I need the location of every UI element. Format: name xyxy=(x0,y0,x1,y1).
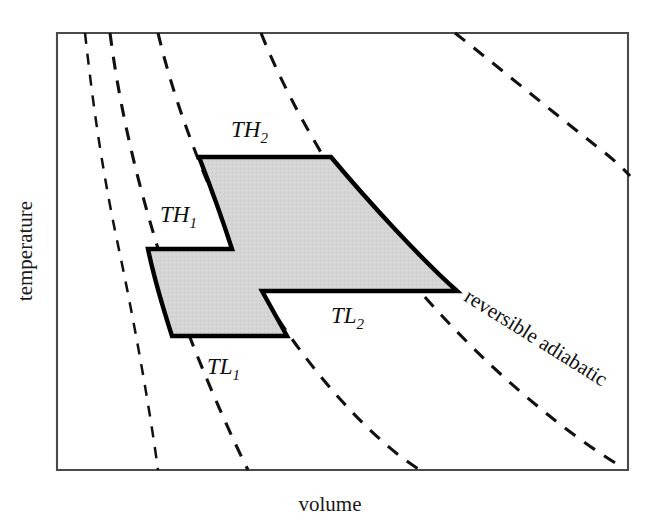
label-th2: TH2 xyxy=(231,117,268,146)
x-axis-title: volume xyxy=(299,492,362,516)
cycle-polygon xyxy=(148,157,457,336)
label-reversible-adiabatic: reversible adiabatic xyxy=(460,284,612,391)
temperature-volume-diagram: TH2 TH1 TL2 TL1 reversible adiabatic tem… xyxy=(0,0,657,532)
figure-root: TH2 TH1 TL2 TL1 reversible adiabatic tem… xyxy=(0,0,657,532)
y-axis-title: temperature xyxy=(13,201,37,301)
label-tl1: TL1 xyxy=(207,354,240,383)
label-tl2: TL2 xyxy=(331,303,365,332)
label-th1: TH1 xyxy=(160,202,197,231)
adiabatic-curve-5 xyxy=(455,33,630,176)
